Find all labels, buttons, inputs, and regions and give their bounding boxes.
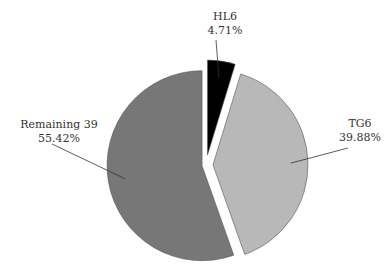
label-tg6-name: TG6 (330, 117, 390, 131)
label-remaining-name: Remaining 39 (14, 118, 104, 132)
label-tg6-value: 39.88% (330, 131, 390, 145)
label-hl6: HL6 4.71% (200, 10, 250, 38)
label-remaining-value: 55.42% (14, 132, 104, 146)
label-hl6-name: HL6 (200, 10, 250, 24)
label-remaining: Remaining 39 55.42% (14, 118, 104, 146)
label-hl6-value: 4.71% (200, 24, 250, 38)
pie-slice-tg6 (213, 74, 308, 254)
label-tg6: TG6 39.88% (330, 117, 390, 145)
